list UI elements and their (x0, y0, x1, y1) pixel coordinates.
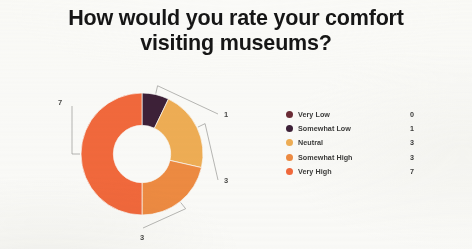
legend-row: Somewhat High3 (286, 150, 414, 164)
page-title-line-1: How would you rate your comfort (22, 6, 450, 31)
chart-legend: Very Low0Somewhat Low1Neutral3Somewhat H… (286, 107, 414, 179)
legend-label: Very Low (298, 110, 398, 119)
legend-row: Very High7 (286, 165, 414, 179)
page-title: How would you rate your comfort visiting… (0, 6, 472, 56)
legend-row: Very Low0 (286, 107, 414, 121)
legend-row: Neutral3 (286, 136, 414, 150)
slice-value-label: 7 (58, 98, 62, 107)
legend-swatch-icon (286, 139, 293, 146)
legend-label: Somewhat Low (298, 124, 398, 133)
legend-label: Somewhat High (298, 153, 398, 162)
legend-value: 7 (398, 167, 414, 176)
slice-value-label: 3 (224, 176, 228, 185)
slide-canvas: How would you rate your comfort visiting… (0, 0, 472, 249)
legend-swatch-icon (286, 111, 293, 118)
donut-slice (81, 93, 142, 215)
legend-label: Very High (298, 167, 398, 176)
legend-value: 0 (398, 110, 414, 119)
slice-value-label: 3 (140, 233, 144, 242)
donut-slice (142, 160, 201, 215)
legend-swatch-icon (286, 125, 293, 132)
donut-slice-group (81, 93, 203, 215)
slice-value-label: 1 (224, 110, 228, 119)
legend-label: Neutral (298, 138, 398, 147)
donut-chart-graphic: 1337 (78, 90, 206, 218)
legend-value: 1 (398, 124, 414, 133)
page-title-line-2: visiting museums? (22, 31, 450, 56)
leader-line (72, 106, 80, 154)
legend-swatch-icon (286, 154, 293, 161)
donut-chart: 1337 (0, 78, 278, 249)
legend-value: 3 (398, 153, 414, 162)
donut-svg (78, 90, 206, 218)
legend-swatch-icon (286, 168, 293, 175)
legend-value: 3 (398, 138, 414, 147)
legend-row: Somewhat Low1 (286, 121, 414, 135)
